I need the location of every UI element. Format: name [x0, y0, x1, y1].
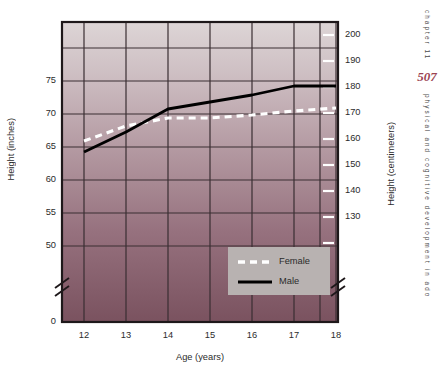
ytick2-label-190: 190	[345, 55, 371, 65]
ytick-label-75: 75	[30, 75, 56, 85]
ytick-label-50: 50	[30, 240, 56, 250]
xtick-label-16: 16	[239, 330, 265, 340]
ytick-label-70: 70	[30, 108, 56, 118]
xtick-label-12: 12	[71, 330, 97, 340]
ytick2-label-170: 170	[345, 107, 371, 117]
xtick-label-13: 13	[113, 330, 139, 340]
ytick2-label-140: 140	[345, 185, 371, 195]
ytick2-label-150: 150	[345, 159, 371, 169]
legend-label-male: Male	[279, 276, 299, 286]
ytick2-label-180: 180	[345, 81, 371, 91]
xtick-label-17: 17	[281, 330, 307, 340]
running-head: physical and cognitive development in ad…	[424, 94, 431, 298]
figure-root: 75 70 65 60 55 50 0 200 190 180 170 160 …	[0, 0, 444, 378]
legend-label-female: Female	[279, 256, 310, 266]
page-number: 507	[417, 69, 437, 85]
y-axis-title: Height (inches)	[6, 118, 16, 181]
ytick-label-55: 55	[30, 207, 56, 217]
ytick-label-65: 65	[30, 141, 56, 151]
ytick2-label-200: 200	[345, 29, 371, 39]
xtick-label-18: 18	[323, 330, 349, 340]
xtick-label-15: 15	[197, 330, 223, 340]
page-margin-column: chapter 11 507 physical and cognitive de…	[410, 0, 444, 378]
xtick-label-14: 14	[155, 330, 181, 340]
secondary-y-axis-title: Height (centimeters)	[386, 122, 396, 206]
x-axis-title: Age (years)	[0, 352, 400, 362]
ytick-label-60: 60	[30, 174, 56, 184]
legend-box	[228, 247, 330, 295]
ytick2-label-130: 130	[345, 211, 371, 221]
chapter-label: chapter 11	[424, 10, 431, 60]
chart-canvas	[0, 0, 444, 378]
ytick-label-zero: 0	[30, 316, 56, 326]
ytick2-label-160: 160	[345, 133, 371, 143]
